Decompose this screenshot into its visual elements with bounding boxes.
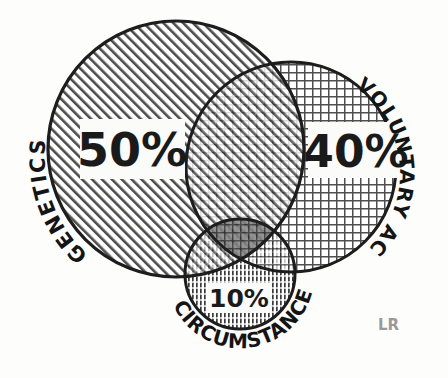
percent-box-genetics: 50% bbox=[77, 119, 187, 179]
venn-svg: 50% 40% 10% GENETICS VOLUNTARY ACTIONS C… bbox=[0, 0, 448, 378]
venn-diagram-figure: 50% 40% 10% GENETICS VOLUNTARY ACTIONS C… bbox=[0, 0, 448, 378]
percent-box-circumstances: 10% bbox=[208, 283, 270, 313]
percent-label-circumstances: 10% bbox=[209, 284, 269, 313]
percent-label-genetics: 50% bbox=[77, 123, 187, 177]
artist-signature: LR bbox=[378, 316, 400, 334]
